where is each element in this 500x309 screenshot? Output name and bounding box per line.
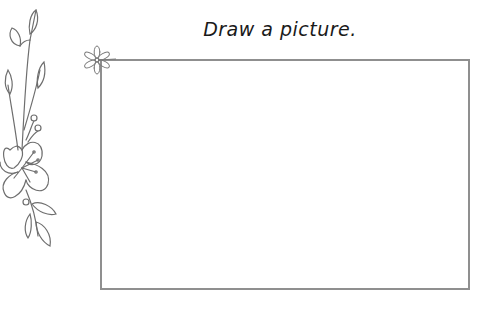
floral-vine-icon xyxy=(0,0,70,260)
page-title: Draw a picture. xyxy=(180,18,380,40)
small-flower-icon xyxy=(82,44,116,76)
drawing-area[interactable] xyxy=(100,59,470,290)
